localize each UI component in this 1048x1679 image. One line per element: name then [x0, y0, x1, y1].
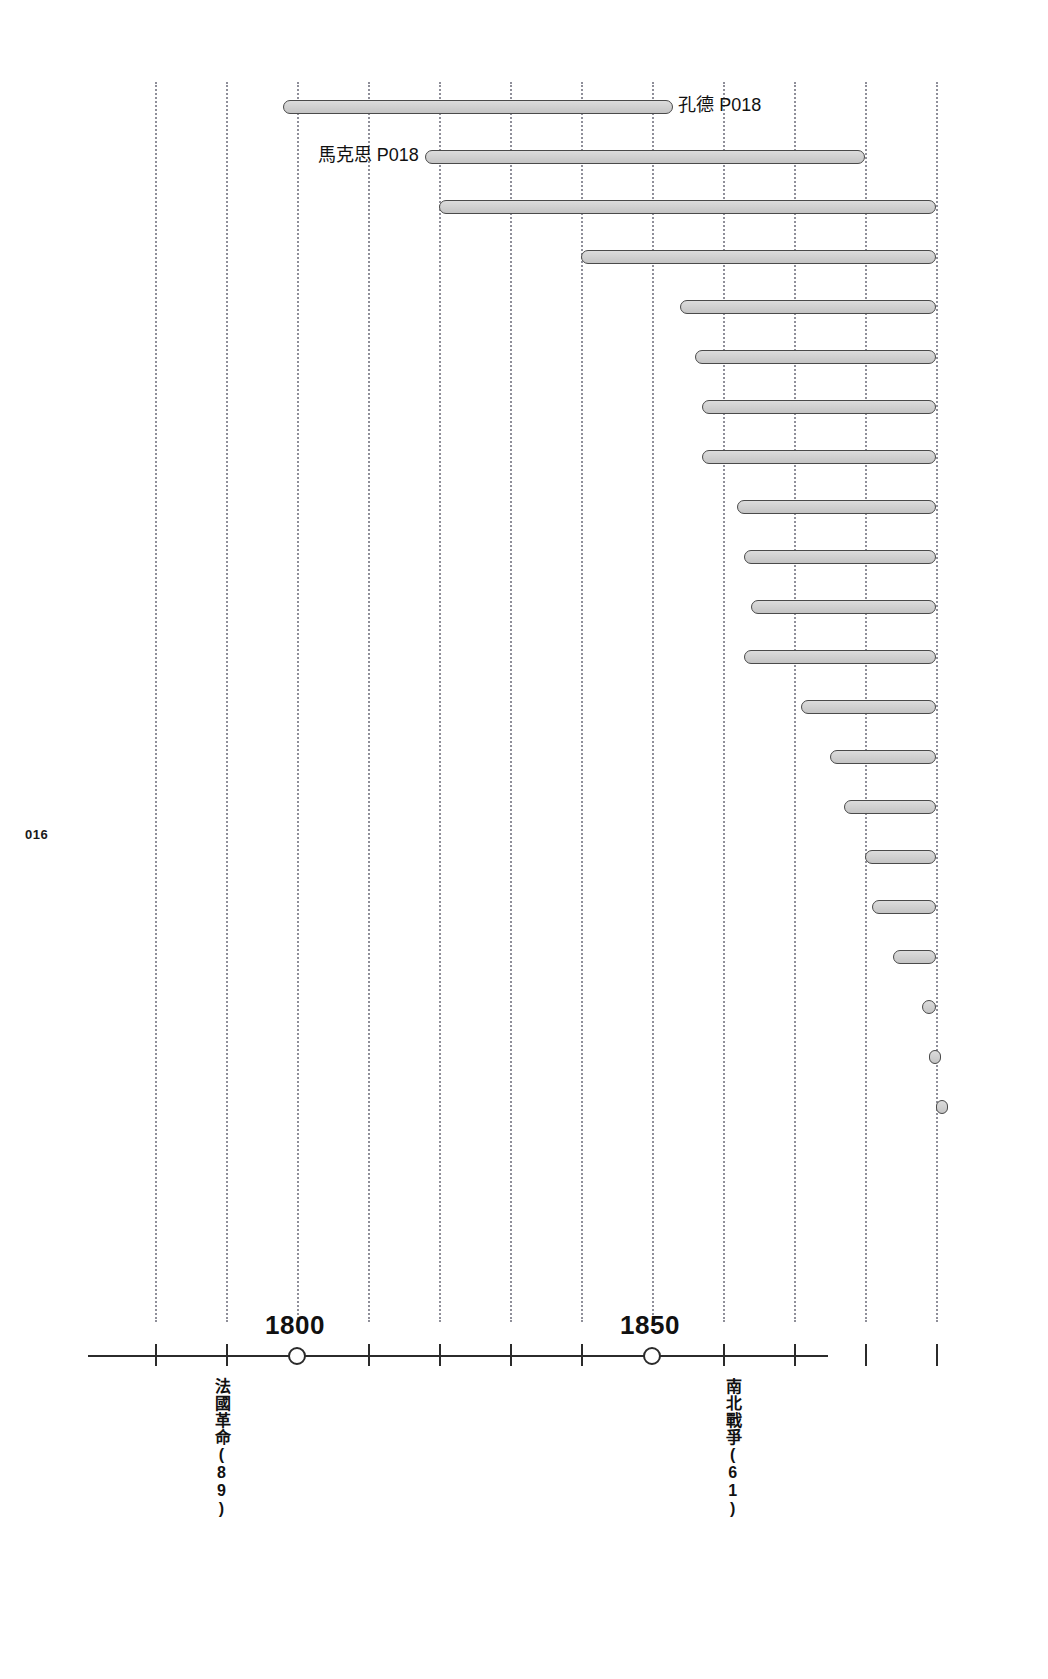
gridline — [652, 82, 654, 1322]
timeline-bar[interactable] — [695, 350, 936, 364]
axis-tick — [439, 1344, 441, 1366]
timeline-chart: 孔德 P018馬克思 P018 18001850法國革命(89)南北戰爭(61) — [0, 0, 1048, 1679]
axis-tick — [723, 1344, 725, 1366]
timeline-bar[interactable] — [283, 100, 674, 114]
axis-year-marker[interactable] — [643, 1347, 661, 1365]
timeline-bar[interactable] — [872, 900, 936, 914]
axis-tick-label: 1800 — [265, 1310, 325, 1341]
timeline-bar[interactable] — [936, 1100, 948, 1114]
axis-tick — [936, 1344, 938, 1366]
gridline — [581, 82, 583, 1322]
timeline-bar[interactable] — [801, 700, 936, 714]
gridline — [936, 82, 938, 1322]
timeline-bar-label: 孔德 P018 — [678, 96, 761, 114]
timeline-bar-label: 馬克思 P018 — [0, 146, 419, 164]
timeline-bar[interactable] — [844, 800, 936, 814]
timeline-bar[interactable] — [922, 1000, 936, 1014]
timeline-bar[interactable] — [744, 550, 936, 564]
gridline — [510, 82, 512, 1322]
axis-tick — [155, 1344, 157, 1366]
axis-year-marker[interactable] — [288, 1347, 306, 1365]
gridline — [297, 82, 299, 1322]
timeline-bar[interactable] — [702, 450, 936, 464]
gridline — [155, 82, 157, 1322]
gridline — [368, 82, 370, 1322]
timeline-bar[interactable] — [439, 200, 936, 214]
axis-tick-label: 1850 — [620, 1310, 680, 1341]
axis-tick — [865, 1344, 867, 1366]
axis-tick — [368, 1344, 370, 1366]
timeline-bar[interactable] — [865, 850, 936, 864]
axis-line — [88, 1355, 828, 1357]
gridline — [439, 82, 441, 1322]
event-annotation-american-civil-war: 南北戰爭(61) — [720, 1378, 740, 1518]
gridline — [226, 82, 228, 1322]
axis-tick — [794, 1344, 796, 1366]
event-annotation-french-revolution: 法國革命(89) — [209, 1378, 229, 1518]
timeline-bar[interactable] — [744, 650, 936, 664]
gridline — [794, 82, 796, 1322]
timeline-bar[interactable] — [702, 400, 936, 414]
timeline-bar[interactable] — [830, 750, 937, 764]
timeline-bar[interactable] — [581, 250, 936, 264]
timeline-bar[interactable] — [893, 950, 936, 964]
axis-tick — [581, 1344, 583, 1366]
timeline-bar[interactable] — [929, 1050, 941, 1064]
gridline — [723, 82, 725, 1322]
timeline-bar[interactable] — [425, 150, 865, 164]
axis-tick — [510, 1344, 512, 1366]
timeline-bar[interactable] — [680, 300, 936, 314]
page-canvas: 016 孔德 P018馬克思 P018 18001850法國革命(89)南北戰爭… — [0, 0, 1048, 1679]
timeline-bar[interactable] — [737, 500, 936, 514]
timeline-bar[interactable] — [751, 600, 936, 614]
axis-tick — [226, 1344, 228, 1366]
